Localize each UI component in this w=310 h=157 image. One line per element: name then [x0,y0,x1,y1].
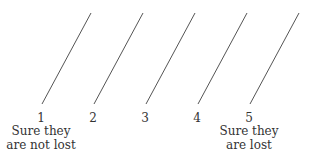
caption-point-1-line2: are not lost [0,138,86,152]
scale-line-2 [94,13,143,104]
scale-line-4 [198,13,247,104]
caption-point-1-line1: Sure they [0,124,86,138]
caption-point-5-line2: are lost [204,138,294,152]
caption-point-5: Sure they are lost [204,124,294,152]
caption-point-1: Sure they are not lost [0,124,86,152]
caption-point-5-line1: Sure they [204,124,294,138]
scale-line-5 [250,13,299,104]
scale-line-3 [146,13,195,104]
scale-line-1 [42,13,91,104]
scale-label-5: 5 [204,111,294,125]
